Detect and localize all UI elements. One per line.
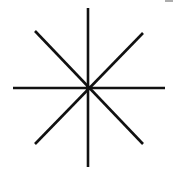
cropped-text-fragment [165,0,173,2]
center-hub [86,86,91,91]
starburst-icon [0,0,180,171]
